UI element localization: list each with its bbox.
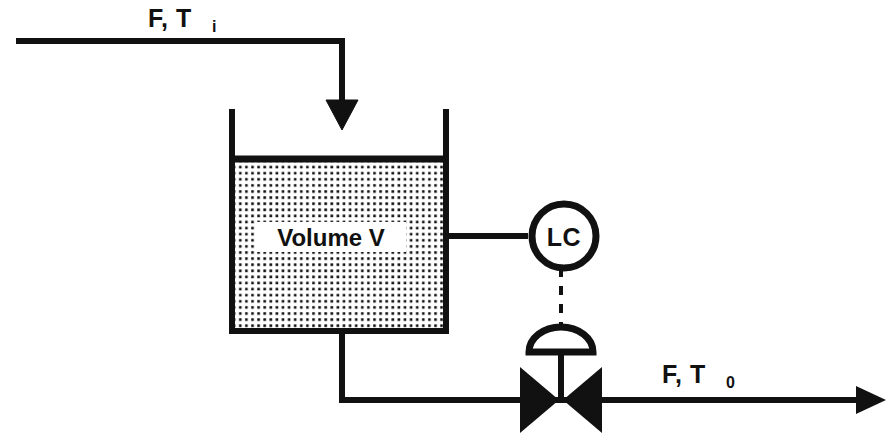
inlet-pipe-line (16, 41, 342, 104)
inlet-label-main: F, T (148, 4, 192, 32)
process-diagram: Volume V LC F, T i (0, 0, 890, 446)
level-controller-bubble[interactable]: LC (532, 204, 596, 268)
control-valve-group[interactable] (520, 327, 602, 433)
tank-vessel-group: Volume V (229, 112, 449, 331)
outlet-label-subscript: 0 (726, 374, 735, 391)
outlet-flow-arrowhead (856, 386, 886, 414)
valve-actuator-dome (529, 327, 593, 352)
pid-canvas: Volume V LC F, T i (0, 0, 890, 446)
vessel-label: Volume V (277, 224, 385, 251)
inlet-stream-group (16, 41, 358, 130)
outlet-stream-label: F, T 0 (662, 360, 735, 391)
outlet-label-main: F, T (662, 360, 706, 388)
inlet-stream-label: F, T i (148, 4, 216, 35)
controller-tag-label: LC (547, 223, 581, 251)
outlet-stream-group (342, 331, 886, 414)
inlet-flow-arrowhead (326, 100, 358, 130)
inlet-label-subscript: i (212, 18, 216, 35)
